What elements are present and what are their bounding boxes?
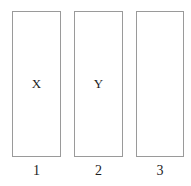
- column-box-3[interactable]: [136, 11, 184, 157]
- column-letter-2: Y: [74, 77, 123, 90]
- column-label-1: 1: [12, 164, 61, 178]
- column-letter-1: X: [12, 77, 61, 90]
- diagram-canvas: X 1 Y 2 3: [0, 0, 191, 186]
- column-label-3: 3: [136, 164, 184, 178]
- column-label-2: 2: [74, 164, 123, 178]
